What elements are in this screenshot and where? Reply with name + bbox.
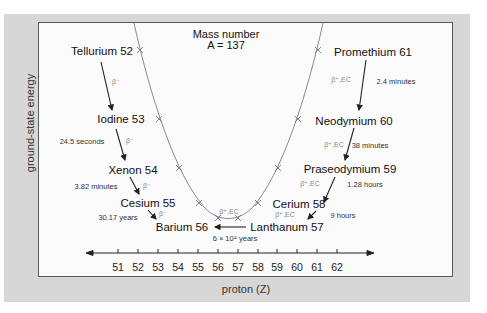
element-neodymium: Neodymium 60: [315, 115, 392, 127]
decay-mode-ce-la: β⁺,EC: [275, 211, 295, 219]
x-tick-54: 54: [172, 261, 184, 273]
x-tick-52: 52: [132, 261, 144, 273]
mass-number-title: Mass number A = 137: [193, 29, 260, 51]
half-life-promethium: 2.4 minutes: [377, 77, 416, 86]
decay-mode-cs-ba: β⁻: [159, 210, 167, 218]
decay-mode-pm-nd: β⁺,EC: [331, 76, 351, 84]
element-xenon: Xenon 54: [108, 164, 157, 176]
half-life-cerium: 9 hours: [330, 211, 355, 220]
element-promethium: Promethium 61: [334, 46, 412, 58]
isobar-markers: [137, 47, 321, 221]
x-tick-59: 59: [271, 261, 283, 273]
x-axis: [86, 249, 374, 256]
half-life-cesium: 30.17 years: [98, 213, 137, 222]
half-life-praseodymium: 1.28 hours: [347, 180, 382, 189]
energy-curve: [134, 23, 323, 219]
element-lanthanum: Lanthanum 57: [250, 221, 324, 233]
x-tick-55: 55: [192, 261, 204, 273]
decay-mode-i-xe: β⁻: [126, 137, 134, 145]
half-life-xenon: 3.82 minutes: [75, 182, 118, 191]
decay-mode-xe-cs: β⁻: [143, 182, 151, 190]
element-praseodymium: Praseodymium 59: [304, 163, 397, 175]
element-barium: Barium 56: [156, 221, 208, 233]
half-life-lanthanum: 6 × 10⁴ years: [213, 234, 258, 243]
decay-mode-pr-ce: β⁺,EC: [300, 180, 320, 188]
half-life-neodymium: 38 minutes: [352, 141, 389, 150]
half-life-iodine: 24.5 seconds: [60, 137, 105, 146]
element-cesium: Cesium 55: [121, 197, 176, 209]
x-tick-60: 60: [291, 261, 303, 273]
decay-mode-la-ba: β⁺,EC: [219, 208, 239, 216]
x-tick-57: 57: [232, 261, 244, 273]
title-line-2: A = 137: [193, 40, 260, 51]
x-tick-61: 61: [311, 261, 323, 273]
decay-mode-te-i: β⁻: [112, 78, 120, 86]
x-tick-62: 62: [331, 261, 343, 273]
x-tick-58: 58: [252, 261, 264, 273]
element-cerium: Cerium 58: [272, 198, 325, 210]
element-iodine: Iodine 53: [97, 113, 144, 125]
x-tick-56: 56: [212, 261, 224, 273]
decay-mode-nd-pr: β⁺,EC: [324, 141, 344, 149]
x-tick-51: 51: [112, 261, 124, 273]
x-tick-53: 53: [152, 261, 164, 273]
element-tellurium: Tellurium 52: [71, 45, 133, 57]
